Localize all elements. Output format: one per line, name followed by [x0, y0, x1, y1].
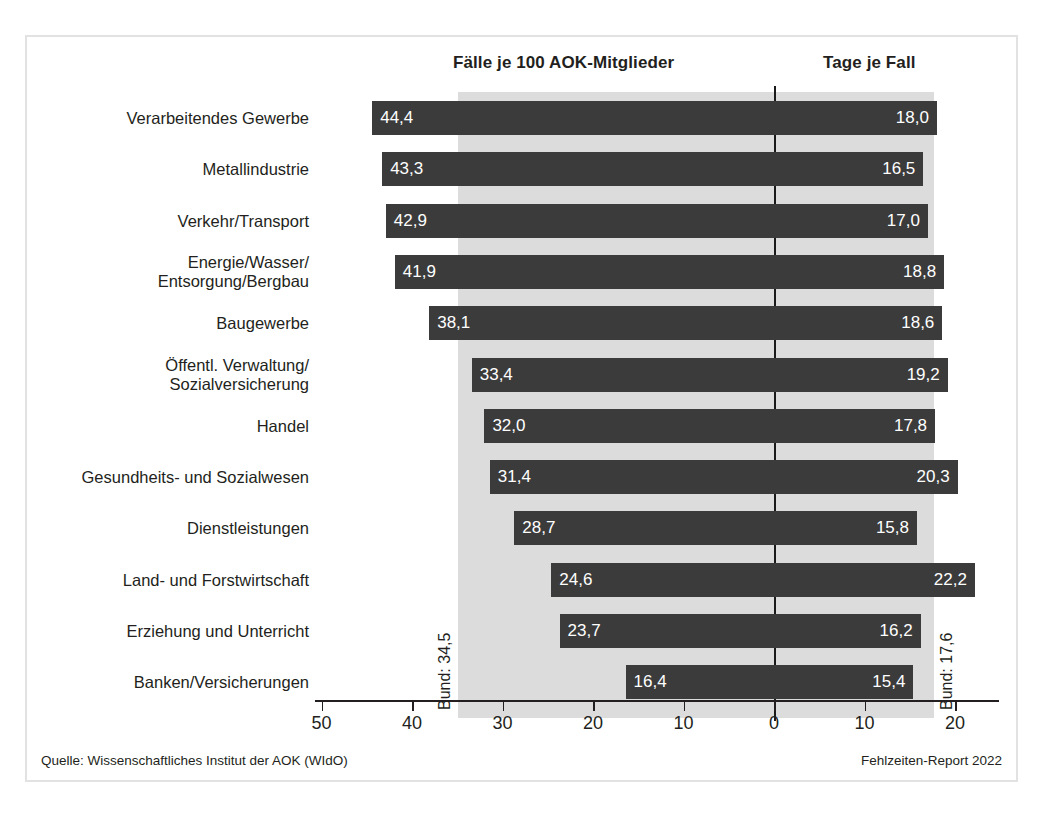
table-row: Handel32,017,8	[27, 409, 1020, 443]
table-row: Baugewerbe38,118,6	[27, 306, 1020, 340]
bar-faelle: 23,7	[560, 614, 774, 648]
axis-tick-label: 20	[945, 713, 965, 734]
axis-tick	[503, 700, 505, 711]
bar-value-label: 18,0	[896, 101, 929, 135]
category-label: Banken/Versicherungen	[9, 673, 309, 692]
bar-value-label: 18,8	[903, 255, 936, 289]
bar-faelle: 33,4	[472, 358, 774, 392]
bar-faelle: 16,4	[626, 665, 774, 699]
axis-tick-label: 50	[311, 713, 331, 734]
bar-faelle: 42,9	[386, 204, 774, 238]
bar-value-label: 16,5	[882, 152, 915, 186]
category-label: Baugewerbe	[9, 314, 309, 333]
axis-tick	[865, 700, 867, 711]
bar-value-label: 17,8	[894, 409, 927, 443]
category-label: Gesundheits- und Sozialwesen	[9, 468, 309, 487]
bar-value-label: 43,3	[390, 152, 423, 186]
table-row: Dienstleistungen28,715,8	[27, 511, 1020, 545]
table-row: Öffentl. Verwaltung/ Sozialversicherung3…	[27, 358, 1020, 392]
bar-value-label: 32,0	[492, 409, 525, 443]
bar-value-label: 16,2	[880, 614, 913, 648]
axis-tick	[412, 700, 414, 711]
axis-tick	[684, 700, 686, 711]
bar-tage: 16,5	[774, 152, 923, 186]
category-label: Handel	[9, 416, 309, 435]
bar-tage: 18,0	[774, 101, 937, 135]
category-label: Öffentl. Verwaltung/ Sozialversicherung	[9, 356, 309, 394]
bar-value-label: 15,8	[876, 511, 909, 545]
table-row: Banken/Versicherungen16,415,4	[27, 665, 1020, 699]
bar-tage: 16,2	[774, 614, 921, 648]
table-row: Land- und Forstwirtschaft24,622,2	[27, 563, 1020, 597]
bar-value-label: 33,4	[480, 358, 513, 392]
bar-value-label: 24,6	[559, 563, 592, 597]
bar-value-label: 31,4	[498, 460, 531, 494]
axis-tick	[322, 700, 324, 711]
axis-tick	[955, 700, 957, 711]
bar-faelle: 44,4	[372, 101, 774, 135]
bar-faelle: 38,1	[429, 306, 774, 340]
bar-faelle: 31,4	[490, 460, 774, 494]
axis-tick-label: 0	[769, 713, 779, 734]
bar-faelle: 28,7	[514, 511, 774, 545]
axis-tick	[593, 700, 595, 711]
category-label: Verkehr/Transport	[9, 211, 309, 230]
table-row: Gesundheits- und Sozialwesen31,420,3	[27, 460, 1020, 494]
bar-tage: 17,8	[774, 409, 935, 443]
axis-tick-label: 30	[492, 713, 512, 734]
category-label: Verarbeitendes Gewerbe	[9, 109, 309, 128]
bar-faelle: 32,0	[484, 409, 774, 443]
table-row: Metallindustrie43,316,5	[27, 152, 1020, 186]
category-label: Dienstleistungen	[9, 519, 309, 538]
bar-tage: 22,2	[774, 563, 975, 597]
category-label: Energie/Wasser/ Entsorgung/Bergbau	[9, 253, 309, 291]
table-row: Verkehr/Transport42,917,0	[27, 204, 1020, 238]
bund-label-right: Bund: 17,6	[938, 633, 956, 710]
bar-tage: 19,2	[774, 358, 948, 392]
bar-tage: 18,8	[774, 255, 944, 289]
plot-area: Verarbeitendes Gewerbe44,418,0Metallindu…	[27, 37, 1020, 784]
bar-value-label: 38,1	[437, 306, 470, 340]
bar-value-label: 19,2	[907, 358, 940, 392]
report-credit: Fehlzeiten-Report 2022	[861, 753, 1002, 768]
bar-value-label: 42,9	[394, 204, 427, 238]
bar-tage: 18,6	[774, 306, 942, 340]
bar-tage: 15,8	[774, 511, 917, 545]
bar-faelle: 41,9	[395, 255, 774, 289]
axis-tick-label: 20	[583, 713, 603, 734]
bar-value-label: 44,4	[380, 101, 413, 135]
bar-value-label: 23,7	[568, 614, 601, 648]
axis-tick-label: 10	[854, 713, 874, 734]
chart-figure: Fälle je 100 AOK-Mitglieder Tage je Fall…	[25, 35, 1018, 782]
x-axis-line	[315, 700, 999, 702]
axis-tick	[774, 700, 776, 711]
bar-value-label: 16,4	[634, 665, 667, 699]
category-label: Erziehung und Unterricht	[9, 622, 309, 641]
bund-label-left: Bund: 34,5	[436, 633, 454, 710]
axis-tick-label: 40	[402, 713, 422, 734]
bar-faelle: 43,3	[382, 152, 774, 186]
table-row: Energie/Wasser/ Entsorgung/Bergbau41,918…	[27, 255, 1020, 289]
bar-value-label: 20,3	[917, 460, 950, 494]
bar-value-label: 18,6	[901, 306, 934, 340]
category-label: Land- und Forstwirtschaft	[9, 570, 309, 589]
bar-tage: 20,3	[774, 460, 958, 494]
bar-value-label: 15,4	[872, 665, 905, 699]
bar-tage: 15,4	[774, 665, 913, 699]
category-label: Metallindustrie	[9, 160, 309, 179]
table-row: Verarbeitendes Gewerbe44,418,0	[27, 101, 1020, 135]
bar-value-label: 17,0	[887, 204, 920, 238]
source-note: Quelle: Wissenschaftliches Institut der …	[41, 753, 348, 768]
bar-value-label: 28,7	[522, 511, 555, 545]
bar-value-label: 41,9	[403, 255, 436, 289]
bar-value-label: 22,2	[934, 563, 967, 597]
table-row: Erziehung und Unterricht23,716,2	[27, 614, 1020, 648]
axis-tick-label: 10	[673, 713, 693, 734]
bar-tage: 17,0	[774, 204, 928, 238]
bar-faelle: 24,6	[551, 563, 774, 597]
